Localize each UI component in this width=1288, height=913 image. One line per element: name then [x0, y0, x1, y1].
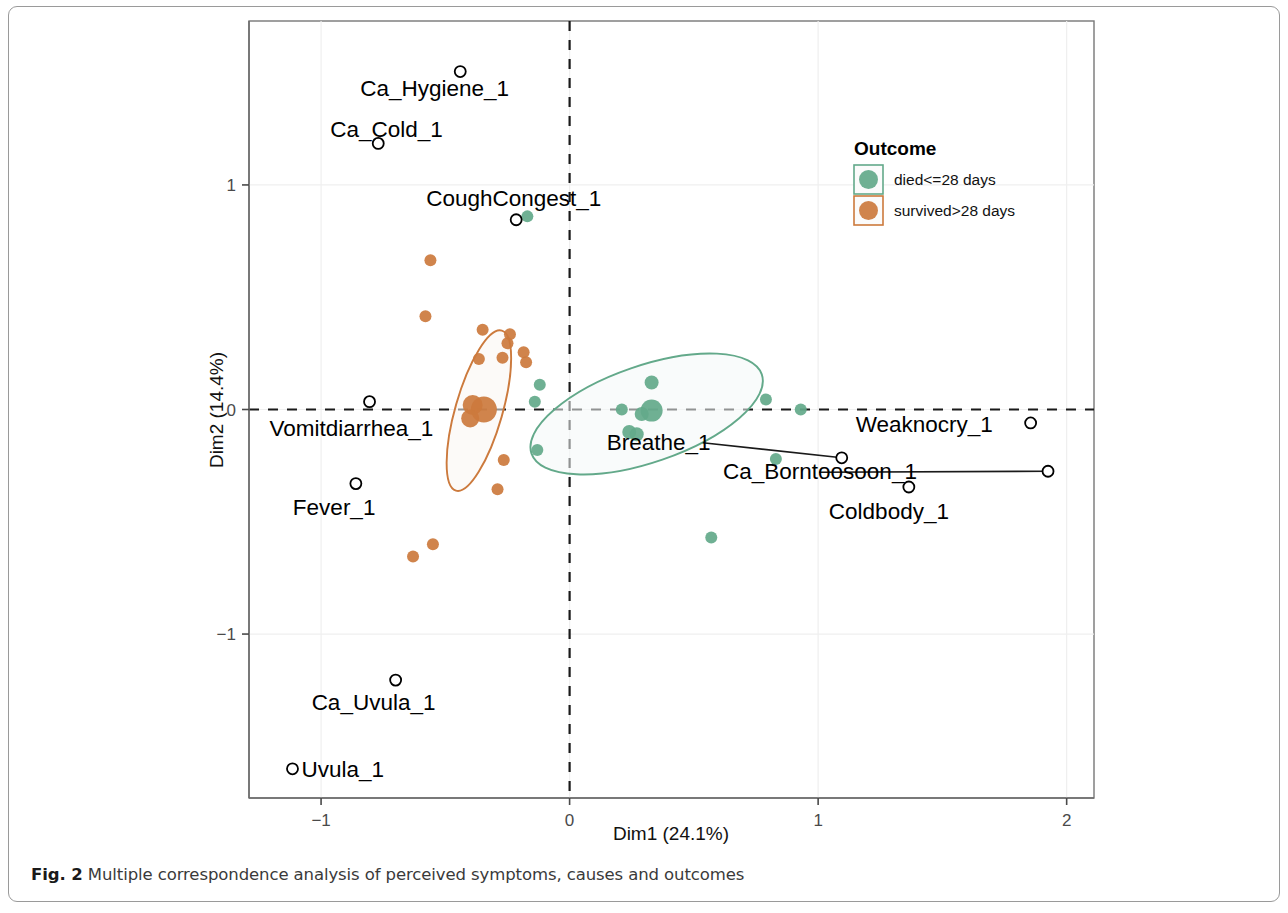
y-tick-label: 1	[227, 176, 236, 195]
variable-point-label: Coldbody_1	[829, 499, 949, 524]
legend-swatch-dot	[859, 170, 878, 189]
data-point	[419, 310, 431, 322]
variable-point-label: Ca_Hygiene_1	[360, 76, 509, 101]
variable-point-marker	[364, 396, 375, 407]
mca-scatter-plot: Ca_Hygiene_1Ca_Cold_1CoughCongest_1Vomit…	[9, 7, 1281, 852]
variable-point-marker	[903, 481, 914, 492]
data-point	[520, 356, 532, 368]
caption-figure-number: Fig. 2	[31, 865, 83, 884]
data-point	[518, 346, 530, 358]
variable-point-label: Ca_Cold_1	[330, 117, 443, 142]
variable-point-marker	[1043, 466, 1054, 477]
data-point	[501, 337, 513, 349]
y-tick-label: −1	[217, 625, 236, 644]
data-point	[521, 210, 533, 222]
variable-point-label: Fever_1	[293, 495, 376, 520]
data-point	[498, 454, 510, 466]
data-point	[529, 396, 541, 408]
chart-canvas: Ca_Hygiene_1Ca_Cold_1CoughCongest_1Vomit…	[9, 7, 1281, 852]
data-point	[635, 407, 649, 421]
data-point	[795, 404, 807, 416]
data-point	[492, 483, 504, 495]
data-point	[427, 538, 439, 550]
legend-item-label: died<=28 days	[894, 171, 996, 188]
x-tick-label: 2	[1062, 811, 1071, 830]
legend-item-label: survived>28 days	[894, 202, 1015, 219]
y-axis-title: Dim2 (14.4%)	[206, 352, 227, 468]
variable-point-label: Breathe_1	[607, 430, 711, 455]
data-point	[531, 444, 543, 456]
data-point	[497, 352, 509, 364]
data-point	[407, 551, 419, 563]
variable-point-marker	[1025, 417, 1036, 428]
legend-title: Outcome	[854, 138, 936, 159]
variable-point-label: Uvula_1	[301, 757, 384, 782]
data-point	[461, 409, 479, 427]
variable-point-marker	[350, 478, 361, 489]
data-point	[534, 379, 546, 391]
variable-point-label: Vomitdiarrhea_1	[270, 416, 434, 441]
data-point	[473, 353, 485, 365]
caption-body: Multiple correspondence analysis of perc…	[88, 865, 745, 884]
x-tick-label: 1	[813, 811, 822, 830]
x-tick-label: 0	[565, 811, 574, 830]
y-tick-label: 0	[227, 401, 236, 420]
data-point	[760, 393, 772, 405]
variable-point-label: Ca_Borntoosoon_1	[723, 459, 917, 484]
figure-card: Ca_Hygiene_1Ca_Cold_1CoughCongest_1Vomit…	[8, 6, 1280, 902]
data-point	[645, 376, 659, 390]
data-point	[477, 324, 489, 336]
data-point	[705, 532, 717, 544]
variable-point-marker	[511, 214, 522, 225]
data-point	[424, 254, 436, 266]
figure-caption: Fig. 2 Multiple correspondence analysis …	[31, 865, 744, 884]
variable-point-marker	[287, 763, 298, 774]
variable-point-label: CoughCongest_1	[426, 186, 601, 211]
x-axis-title: Dim1 (24.1%)	[613, 823, 729, 844]
x-tick-label: −1	[311, 811, 330, 830]
variable-point-label: Ca_Uvula_1	[312, 690, 436, 715]
variable-point-marker	[390, 675, 401, 686]
legend-swatch-dot	[859, 201, 878, 220]
data-point	[616, 404, 628, 416]
variable-point-label: Weaknocry_1	[856, 412, 993, 437]
